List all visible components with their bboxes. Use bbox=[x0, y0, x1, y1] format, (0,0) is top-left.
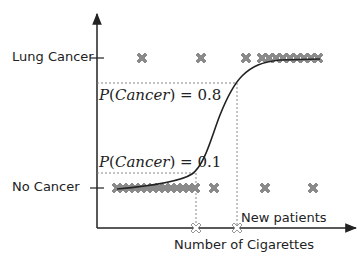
x-axis-label: Number of Cigarettes bbox=[174, 237, 314, 252]
p08-func: P bbox=[99, 86, 109, 104]
p08-val: = 0.8 bbox=[175, 86, 221, 104]
p01-val: = 0.1 bbox=[175, 153, 221, 171]
no-cancer-markers bbox=[112, 183, 318, 193]
p01-arg: Cancer bbox=[115, 153, 170, 171]
label-no-cancer: No Cancer bbox=[12, 179, 80, 194]
annotation-p01: P(Cancer) = 0.1 bbox=[99, 153, 221, 171]
annotation-p08: P(Cancer) = 0.8 bbox=[99, 86, 221, 104]
label-new-patients: New patients bbox=[241, 210, 327, 225]
label-lung-cancer: Lung Cancer bbox=[12, 49, 94, 64]
lung-cancer-markers bbox=[137, 53, 323, 63]
p08-arg: Cancer bbox=[115, 86, 170, 104]
p01-func: P bbox=[99, 153, 109, 171]
